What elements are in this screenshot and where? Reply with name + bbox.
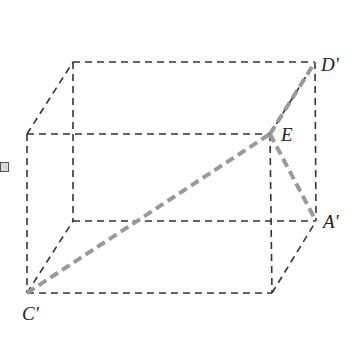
highlighted-segments [27, 62, 316, 293]
segment-e-to-a-prime [270, 134, 316, 221]
edge-front-right [270, 134, 272, 293]
edge-back-right [315, 62, 316, 221]
label-d-prime: D' [320, 54, 340, 75]
label-a-prime: A' [321, 211, 340, 232]
edge-bottom-left-depth [27, 221, 73, 293]
edge-bottom-right-depth [272, 221, 316, 293]
prism-diagram: D' E A' C' [0, 0, 354, 352]
edge-top-left-depth [27, 62, 73, 134]
segment-c-prime-to-e [27, 134, 270, 293]
label-e: E [280, 124, 293, 145]
label-c-prime: C' [22, 303, 40, 324]
prism-edges [27, 62, 316, 293]
